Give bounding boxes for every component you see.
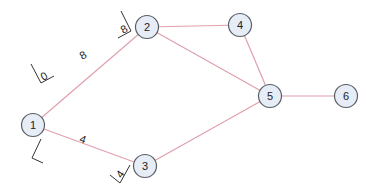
node-3-label: 3: [142, 160, 148, 172]
node-5-label: 5: [267, 90, 273, 102]
node-3[interactable]: 3: [134, 155, 157, 178]
node-1-label: 1: [30, 119, 36, 131]
node-5[interactable]: 5: [259, 85, 282, 108]
weight-e13-end: 4: [113, 168, 126, 180]
node-2[interactable]: 2: [136, 16, 159, 39]
edge-3-5: [145, 96, 270, 166]
node-1[interactable]: 1: [22, 114, 45, 137]
edge-2-4: [147, 25, 240, 27]
edge-2-5: [147, 27, 270, 96]
edge-1-2: [33, 27, 147, 125]
edge-1-3: [33, 125, 145, 166]
node-2-label: 2: [144, 21, 150, 33]
weight-e12-mid: 8: [77, 48, 88, 61]
node-6-label: 6: [343, 90, 349, 102]
bracket-e13-start: [32, 139, 43, 163]
node-6[interactable]: 6: [335, 85, 358, 108]
graph-diagram: 0 8 8 0 4 4 1 2 3 4 5 6: [0, 0, 378, 193]
node-4[interactable]: 4: [229, 14, 252, 37]
node-4-label: 4: [237, 19, 243, 31]
weight-e13-mid: 4: [78, 132, 88, 145]
